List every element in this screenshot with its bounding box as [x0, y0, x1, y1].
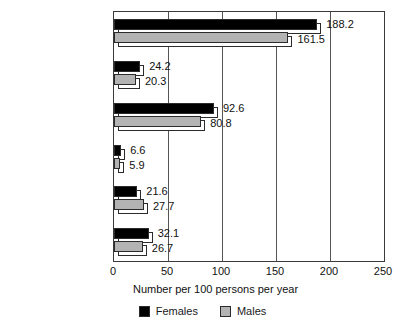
legend-swatch-females-icon	[139, 306, 150, 317]
bar-value-label: 5.9	[129, 160, 144, 171]
bar-value-label: 92.6	[223, 103, 244, 114]
bar-face	[114, 74, 136, 85]
bar-face	[114, 199, 144, 210]
bar-face	[114, 186, 137, 197]
bar-value-label: 21.6	[146, 186, 167, 197]
legend-item-males: Males	[220, 305, 266, 317]
x-tick-label: 50	[161, 266, 173, 277]
bar-value-label: 26.7	[152, 243, 173, 254]
x-tick-label: 100	[212, 266, 230, 277]
bar-value-label: 188.2	[326, 19, 354, 30]
legend-label-females: Females	[156, 305, 198, 317]
bar-value-label: 20.3	[145, 76, 166, 87]
x-tick-label: 150	[266, 266, 284, 277]
bar-face	[114, 19, 317, 30]
x-tick-label: 250	[374, 266, 392, 277]
bar-face	[114, 145, 121, 156]
plot-area: All acute conditions188.2161.5Infectious…	[113, 11, 385, 262]
bar-value-label: 32.1	[158, 228, 179, 239]
bar-face	[114, 32, 288, 43]
x-axis-ticks: 050100150200250	[113, 266, 385, 280]
bar-face	[114, 103, 214, 114]
legend-item-females: Females	[139, 305, 198, 317]
bar-face	[114, 241, 143, 252]
bar-value-label: 161.5	[297, 34, 325, 45]
bar-value-label: 80.8	[210, 118, 231, 129]
bar-value-label: 6.6	[130, 145, 145, 156]
bar-face	[114, 158, 120, 169]
x-tick-label: 0	[110, 266, 116, 277]
category-row: All acute conditions188.2161.5	[114, 12, 384, 54]
bar-face	[114, 116, 201, 127]
category-row: All other32.126.7	[114, 221, 384, 263]
bar-face	[114, 228, 149, 239]
category-row: Injuries21.627.7	[114, 179, 384, 221]
legend-swatch-males-icon	[220, 306, 231, 317]
category-row: Respiratory92.680.8	[114, 96, 384, 138]
category-row: Digestive6.65.9	[114, 138, 384, 180]
chart-legend: Females Males	[0, 305, 405, 317]
x-tick-label: 200	[320, 266, 338, 277]
category-row: Infectious & parasitic24.220.3	[114, 54, 384, 96]
bar-value-label: 27.7	[153, 201, 174, 212]
bar-chart: All acute conditions188.2161.5Infectious…	[0, 0, 405, 327]
x-axis-title-text: Number per 100 persons per year	[133, 283, 298, 295]
x-axis-title: Number per 100 persons per year	[0, 283, 405, 295]
bar-face	[114, 61, 140, 72]
bar-value-label: 24.2	[149, 61, 170, 72]
legend-label-males: Males	[237, 305, 266, 317]
